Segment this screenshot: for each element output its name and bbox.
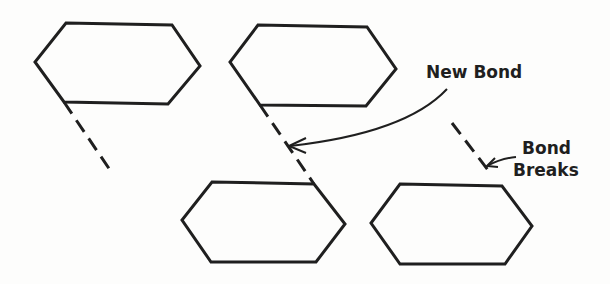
bond-breaks-label-line2: Breaks <box>513 160 579 180</box>
bond-breaks-label-line1: Bond <box>522 138 571 158</box>
dashed-bond-1 <box>64 102 110 170</box>
diagram-canvas <box>0 0 610 284</box>
new-bond-arrow <box>290 89 447 146</box>
dashed-broken-bond <box>452 123 488 170</box>
bond-formation-diagram: New Bond Bond Breaks <box>0 0 610 284</box>
hexagon-2-bottom <box>182 182 345 262</box>
hexagon-1 <box>35 23 200 104</box>
hexagon-2-top <box>230 25 396 106</box>
new-bond-label: New Bond <box>426 62 522 82</box>
hexagon-3 <box>371 184 532 264</box>
